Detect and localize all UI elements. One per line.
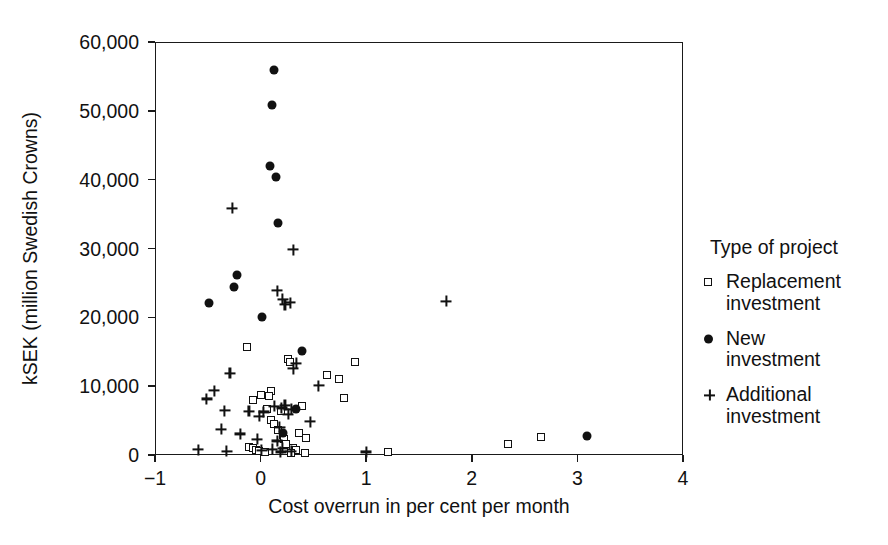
- plus-marker: [269, 401, 280, 412]
- open-square-marker: [252, 446, 260, 454]
- data-point: [268, 100, 277, 109]
- open-square-marker: [295, 429, 303, 437]
- data-point: [313, 380, 324, 391]
- data-point: [252, 434, 263, 445]
- plus-marker: [274, 422, 285, 433]
- data-point: [298, 402, 306, 410]
- data-point: [287, 449, 295, 457]
- plot-area: [155, 42, 683, 455]
- open-square-marker: [289, 444, 297, 452]
- data-points-layer: [156, 43, 682, 454]
- open-square-marker: [302, 434, 310, 442]
- data-point: [219, 405, 230, 416]
- x-axis-tick: [260, 455, 262, 462]
- open-square-marker: [286, 358, 294, 366]
- plus-marker: [272, 285, 283, 296]
- data-point: [302, 434, 310, 442]
- data-point: [292, 446, 300, 454]
- open-square-marker: [249, 444, 257, 452]
- y-axis-tick-label: 60,000: [0, 31, 139, 54]
- open-square-marker: [270, 420, 278, 428]
- filled-circle-marker: [292, 405, 301, 414]
- filled-circle-marker: [582, 432, 591, 441]
- plus-marker: [224, 368, 235, 379]
- data-point: [297, 347, 306, 356]
- filled-circle-marker: [204, 298, 213, 307]
- plus-marker: [285, 297, 296, 308]
- data-point: [292, 405, 301, 414]
- data-point: [301, 449, 309, 457]
- open-square-marker: [274, 426, 282, 434]
- plus-marker: [252, 434, 263, 445]
- data-point: [286, 404, 297, 415]
- legend-entry: Additionalinvestment: [700, 384, 886, 428]
- data-point: [504, 440, 512, 448]
- legend-label-line2: investment: [726, 349, 886, 371]
- open-square-marker: [265, 392, 273, 400]
- legend-marker: [704, 334, 713, 343]
- data-point: [255, 447, 263, 455]
- data-point: [340, 394, 348, 402]
- plus-marker: [275, 446, 286, 457]
- data-point: [323, 371, 331, 379]
- plus-marker: [283, 409, 294, 420]
- y-axis-tick: [148, 248, 155, 250]
- y-axis-tick-label: 40,000: [0, 168, 139, 191]
- data-point: [269, 401, 280, 412]
- open-square-marker: [335, 375, 343, 383]
- plus-marker: [313, 380, 324, 391]
- plus-marker: [267, 444, 278, 455]
- y-axis-tick: [148, 317, 155, 319]
- data-point: [249, 396, 257, 404]
- y-axis-tick-label: 30,000: [0, 237, 139, 260]
- data-point: [272, 285, 283, 296]
- open-square-marker: [249, 396, 257, 404]
- legend-label-line2: investment: [726, 293, 886, 315]
- data-point: [275, 446, 286, 457]
- data-point: [249, 444, 257, 452]
- data-point: [274, 218, 283, 227]
- data-point: [335, 375, 343, 383]
- data-point: [277, 407, 285, 415]
- data-point: [277, 443, 288, 454]
- x-axis-tick: [682, 455, 684, 462]
- data-point: [384, 448, 392, 456]
- open-square-marker: [261, 448, 269, 456]
- x-axis-tick: [577, 455, 579, 462]
- y-axis-tick: [148, 110, 155, 112]
- data-point: [289, 444, 297, 452]
- data-point: [243, 406, 254, 417]
- data-point: [227, 203, 238, 214]
- x-axis-tick-label: 1: [361, 467, 372, 490]
- plus-marker: [227, 203, 238, 214]
- open-square-marker: [287, 449, 295, 457]
- legend-label-line2: investment: [726, 406, 886, 428]
- data-point: [256, 445, 267, 456]
- data-point: [279, 431, 287, 439]
- plus-marker: [279, 400, 290, 411]
- filled-circle-marker: [274, 218, 283, 227]
- plus-marker: [219, 405, 230, 416]
- data-point: [288, 363, 299, 374]
- data-point: [279, 299, 290, 310]
- data-point: [441, 296, 452, 307]
- legend-entry: Replacementinvestment: [700, 271, 886, 315]
- x-axis-tick: [154, 455, 156, 462]
- data-point: [582, 432, 591, 441]
- data-point: [224, 368, 235, 379]
- plus-marker: [291, 358, 302, 369]
- open-square-marker: [537, 433, 545, 441]
- plus-marker: [216, 424, 227, 435]
- data-point: [209, 385, 220, 396]
- open-square-marker: [267, 387, 275, 395]
- plus-marker: [704, 390, 715, 401]
- data-point: [230, 282, 239, 291]
- data-point: [270, 65, 279, 74]
- filled-circle-marker: [266, 161, 275, 170]
- open-square-marker: [298, 402, 306, 410]
- data-point: [261, 448, 269, 456]
- plus-marker: [279, 299, 290, 310]
- x-axis-tick-label: 4: [678, 467, 689, 490]
- plus-marker: [209, 385, 220, 396]
- legend-marker: [704, 390, 715, 401]
